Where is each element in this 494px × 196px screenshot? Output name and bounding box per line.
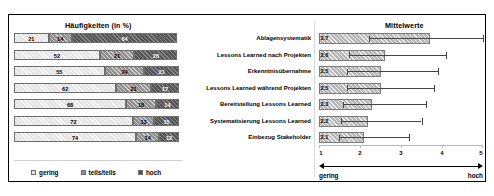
legend-label: hoch bbox=[146, 169, 161, 176]
chart-legend: geringteils/teilshoch bbox=[31, 167, 161, 177]
error-whisker bbox=[339, 137, 409, 138]
segment-gering: 21 bbox=[14, 33, 49, 43]
segment-teils-teils: 14 bbox=[49, 33, 72, 43]
legend-swatch-icon bbox=[81, 170, 86, 175]
left-chart-title: Häufigkeiten (in %) bbox=[65, 21, 132, 30]
whisker-cap-left bbox=[347, 85, 348, 91]
arrow-shaft bbox=[323, 166, 479, 167]
axis-tick-label: 4 bbox=[440, 150, 443, 156]
stacked-bar-row: 681814 bbox=[14, 99, 179, 109]
segment-gering: 72 bbox=[14, 116, 133, 126]
axis-tick-label: 1 bbox=[319, 150, 322, 156]
whisker-cap-right bbox=[446, 52, 447, 59]
axis-tick-label: 2 bbox=[358, 150, 361, 156]
legend-divider bbox=[14, 160, 182, 161]
axis-tick-label: 5 bbox=[479, 150, 482, 156]
legend-swatch-icon bbox=[31, 170, 36, 175]
mean-value-label: 2.1 bbox=[321, 132, 329, 143]
category-label: Lessons Learned während Projekten bbox=[206, 83, 311, 93]
segment-gering: 52 bbox=[14, 50, 100, 60]
category-label: Systematisierung Lessons Learned bbox=[210, 116, 311, 126]
legend-item[interactable]: gering bbox=[31, 169, 59, 176]
whisker-cap-right bbox=[434, 85, 435, 92]
whisker-cap-right bbox=[409, 134, 410, 141]
segment-hoch: 17 bbox=[151, 83, 179, 93]
stacked-bar-row: 211464 bbox=[14, 33, 179, 43]
chart-figure: Häufigkeiten (in %) Mittelwerte 21146452… bbox=[8, 14, 486, 182]
legend-item[interactable]: hoch bbox=[138, 169, 161, 176]
segment-hoch: 15 bbox=[154, 116, 179, 126]
mean-bar-row: 3.7 bbox=[319, 33, 483, 44]
whisker-cap-left bbox=[343, 102, 344, 108]
stacked-bar-row: 552421 bbox=[14, 66, 179, 76]
segment-teils-teils: 24 bbox=[105, 66, 145, 76]
scale-anchor-low: gering bbox=[319, 172, 339, 179]
whisker-cap-left bbox=[339, 135, 340, 141]
segment-hoch: 26 bbox=[134, 50, 177, 60]
legend-label: teils/teils bbox=[89, 169, 116, 176]
mean-value-label: 2.5 bbox=[321, 66, 329, 77]
segment-teils-teils: 18 bbox=[126, 99, 156, 109]
error-whisker bbox=[369, 38, 483, 39]
segment-hoch: 14 bbox=[156, 99, 179, 109]
whisker-cap-right bbox=[422, 118, 423, 125]
segment-teils-teils: 21 bbox=[116, 83, 151, 93]
segment-hoch: 21 bbox=[144, 66, 179, 76]
whisker-cap-left bbox=[369, 36, 370, 42]
axis-tick bbox=[401, 145, 402, 148]
stacked-bar-row: 622117 bbox=[14, 83, 179, 93]
segment-gering: 55 bbox=[14, 66, 105, 76]
mean-bar-row: 2.3 bbox=[319, 99, 483, 110]
mean-value-label: 3.7 bbox=[321, 33, 329, 44]
segment-gering: 74 bbox=[14, 132, 136, 142]
error-whisker bbox=[347, 88, 434, 89]
category-label: Bereitstellung Lessons Learned bbox=[220, 99, 311, 109]
segment-gering: 62 bbox=[14, 83, 116, 93]
whisker-cap-left bbox=[341, 118, 342, 124]
right-chart-title: Mittelwerte bbox=[385, 21, 424, 30]
scale-anchor-high: hoch bbox=[468, 172, 483, 179]
whisker-cap-left bbox=[347, 69, 348, 75]
segment-teils-teils: 13 bbox=[133, 116, 154, 126]
error-whisker bbox=[341, 121, 421, 122]
error-whisker bbox=[343, 104, 426, 105]
means-bar-chart: gering hoch 3.72.62.52.52.32.22.112345 bbox=[319, 33, 483, 183]
segment-gering: 68 bbox=[14, 99, 126, 109]
mean-bar-row: 2.2 bbox=[319, 116, 483, 127]
legend-swatch-icon bbox=[138, 170, 143, 175]
error-whisker bbox=[349, 55, 447, 56]
category-label: Erkenntnisübernahme bbox=[248, 66, 311, 76]
whisker-cap-right bbox=[438, 68, 439, 75]
axis-tick-label: 3 bbox=[399, 150, 402, 156]
category-label: Einbezug Stakeholder bbox=[248, 132, 311, 142]
category-label: Ablagensystematik bbox=[256, 33, 311, 43]
axis-tick bbox=[319, 145, 320, 148]
whisker-cap-left bbox=[349, 52, 350, 58]
scale-arrow bbox=[319, 162, 483, 171]
mean-bar-row: 2.5 bbox=[319, 83, 483, 94]
legend-label: gering bbox=[39, 169, 59, 176]
mean-value-label: 2.6 bbox=[321, 50, 329, 61]
segment-teils-teils: 14 bbox=[136, 132, 159, 142]
stacked-bar-row: 522126 bbox=[14, 50, 179, 60]
legend-item[interactable]: teils/teils bbox=[81, 169, 116, 176]
mean-value-label: 2.3 bbox=[321, 99, 329, 110]
error-whisker bbox=[347, 71, 438, 72]
whisker-cap-right bbox=[483, 35, 484, 42]
whisker-cap-right bbox=[426, 101, 427, 108]
frequencies-stacked-bar-chart: 2114645221265524216221176818147213157414… bbox=[14, 33, 182, 151]
mean-bar-row: 2.5 bbox=[319, 66, 483, 77]
stacked-bar-row: 741412 bbox=[14, 132, 179, 142]
segment-hoch: 64 bbox=[72, 33, 178, 43]
arrow-head-right-icon bbox=[478, 163, 483, 169]
mean-bar-row: 2.6 bbox=[319, 50, 483, 61]
axis-tick bbox=[482, 145, 483, 148]
mean-bar-row: 2.1 bbox=[319, 132, 483, 143]
category-label: Lessons Learned nach Projekten bbox=[217, 50, 311, 60]
axis-tick bbox=[442, 145, 443, 148]
mean-value-label: 2.5 bbox=[321, 83, 329, 94]
axis-tick bbox=[360, 145, 361, 148]
category-label-column: AblagensystematikLessons Learned nach Pr… bbox=[185, 33, 313, 151]
mean-value-label: 2.2 bbox=[321, 116, 329, 127]
stacked-bar-row: 721315 bbox=[14, 116, 179, 126]
